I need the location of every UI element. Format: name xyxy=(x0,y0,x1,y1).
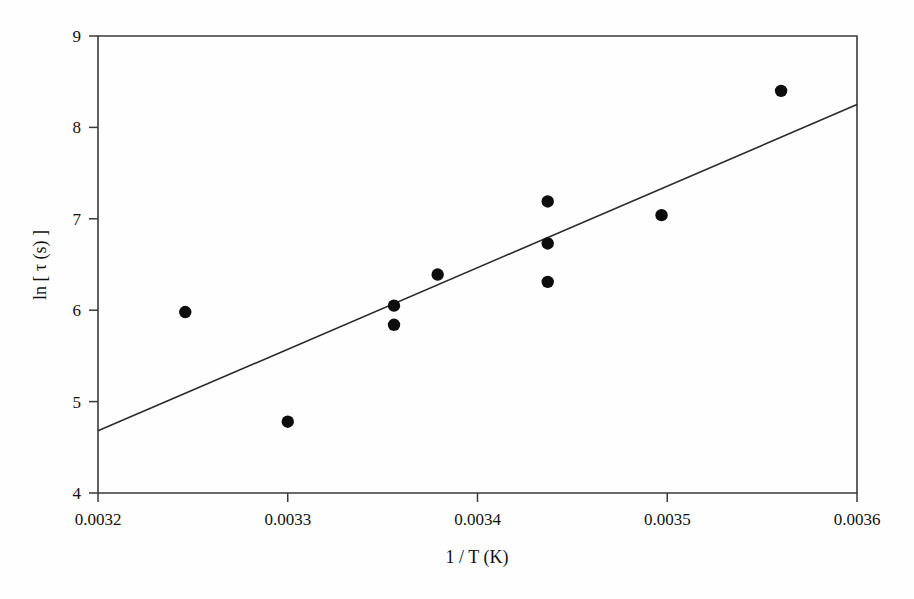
x-tick-label: 0.0033 xyxy=(264,510,311,529)
data-point-series xyxy=(179,85,787,428)
y-tick-label: 9 xyxy=(73,27,82,46)
linear-fit-line xyxy=(98,105,857,431)
x-tick-label: 0.0032 xyxy=(75,510,122,529)
y-axis-title: ln [ τ (s) ] xyxy=(30,230,51,300)
data-point xyxy=(542,195,554,207)
data-point xyxy=(542,276,554,288)
data-point xyxy=(388,319,400,331)
data-point xyxy=(431,268,443,280)
x-axis-title: 1 / T (K) xyxy=(446,547,509,568)
arrhenius-scatter-plot: 0.00320.00330.00340.00350.0036 456789 1 … xyxy=(0,0,914,599)
data-point xyxy=(388,299,400,311)
y-tick-label: 7 xyxy=(73,210,82,229)
x-tick-label: 0.0035 xyxy=(644,510,691,529)
data-point xyxy=(775,85,787,97)
data-point xyxy=(542,237,554,249)
data-point xyxy=(282,416,294,428)
x-axis-ticks xyxy=(98,493,857,502)
x-axis-tick-labels: 0.00320.00330.00340.00350.0036 xyxy=(75,510,881,529)
y-axis-ticks xyxy=(89,36,98,493)
y-tick-label: 6 xyxy=(73,301,82,320)
chart-figure: 0.00320.00330.00340.00350.0036 456789 1 … xyxy=(0,0,914,599)
y-tick-label: 5 xyxy=(73,393,82,412)
x-tick-label: 0.0034 xyxy=(454,510,501,529)
data-point xyxy=(179,306,191,318)
y-tick-label: 8 xyxy=(73,118,82,137)
y-tick-label: 4 xyxy=(73,484,82,503)
data-point xyxy=(655,209,667,221)
x-tick-label: 0.0036 xyxy=(834,510,881,529)
y-axis-tick-labels: 456789 xyxy=(73,27,82,503)
trend-line-group xyxy=(98,105,857,431)
plot-frame xyxy=(98,36,857,493)
